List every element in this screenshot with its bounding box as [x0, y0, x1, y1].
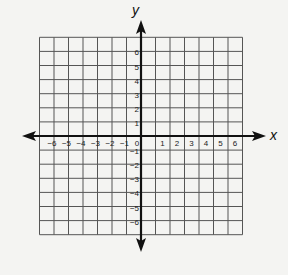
y-tick-label: −5 [130, 204, 140, 213]
x-tick-label: 5 [218, 139, 223, 148]
x-tick-label: −5 [62, 139, 72, 148]
y-tick-label: −6 [130, 218, 140, 227]
x-tick-label: −4 [76, 139, 86, 148]
y-tick-label: 4 [135, 77, 140, 86]
y-tick-label: −4 [130, 189, 140, 198]
x-tick-label: 1 [160, 139, 165, 148]
y-axis-label: y [131, 2, 140, 18]
y-tick-label: −3 [130, 175, 140, 184]
x-tick-label: 4 [204, 139, 209, 148]
x-axis-label: x [269, 127, 278, 143]
x-tick-label: −2 [105, 139, 115, 148]
x-tick-label: 6 [233, 139, 238, 148]
y-tick-label: 6 [135, 48, 140, 57]
x-tick-label: −6 [47, 139, 57, 148]
y-tick-label: 1 [135, 119, 140, 128]
y-tick-label: −2 [130, 161, 140, 170]
y-tick-label: 5 [135, 63, 140, 72]
y-tick-label: −1 [130, 147, 140, 156]
x-tick-label: −3 [91, 139, 101, 148]
x-tick-label: 2 [175, 139, 180, 148]
y-tick-labels: 654321−1−2−3−4−5−6 [130, 48, 140, 226]
y-tick-label: 3 [135, 91, 140, 100]
x-tick-labels: −6−5−4−3−2−10123456 [47, 139, 237, 148]
x-tick-label: 3 [189, 139, 194, 148]
axes [22, 20, 266, 252]
x-tick-label: −1 [120, 139, 130, 148]
y-tick-label: 2 [135, 105, 140, 114]
coordinate-plane: x y −6−5−4−3−2−10123456 654321−1−2−3−4−5… [0, 0, 288, 275]
